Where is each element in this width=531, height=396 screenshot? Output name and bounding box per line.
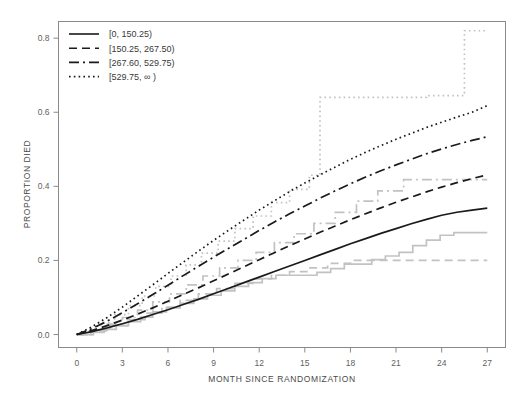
legend-label-3: [267.60, 529.75): [109, 58, 175, 68]
x-tick-label: 21: [391, 358, 401, 368]
x-tick-label: 18: [346, 358, 356, 368]
x-axis-title: MONTH SINCE RANDOMIZATION: [208, 374, 356, 384]
legend-label-2: [150.25, 267.50): [109, 44, 175, 54]
y-axis-title: PROPORTION DIED: [22, 140, 32, 229]
x-tick-label: 24: [437, 358, 447, 368]
x-tick-label: 12: [254, 358, 264, 368]
x-tick-label: 0: [74, 358, 79, 368]
y-tick-label: 0.6: [38, 107, 50, 117]
chart-background: [0, 0, 531, 396]
y-tick-label: 0.2: [38, 255, 50, 265]
legend-label-4: [529.75, ∞ ): [109, 72, 156, 82]
y-tick-label: 0.0: [38, 330, 50, 340]
y-tick-label: 0.4: [38, 181, 50, 191]
legend-label-1: [0, 150.25): [109, 29, 152, 39]
x-tick-label: 15: [300, 358, 310, 368]
x-tick-label: 9: [211, 358, 216, 368]
x-tick-label: 3: [120, 358, 125, 368]
survival-curve-chart: 0.00.20.40.60.8 0369121518212427 PROPORT…: [0, 0, 531, 396]
y-tick-label: 0.8: [38, 33, 50, 43]
x-tick-label: 6: [166, 358, 171, 368]
chart-figure: 0.00.20.40.60.8 0369121518212427 PROPORT…: [0, 0, 531, 396]
x-tick-label: 27: [483, 358, 493, 368]
